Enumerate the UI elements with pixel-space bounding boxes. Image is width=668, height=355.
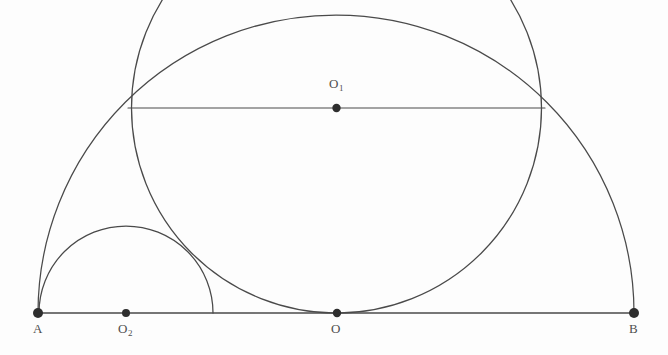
small-semicircle-arc <box>39 226 213 313</box>
point-label-a: A <box>33 321 43 337</box>
point-label-o2-base: O <box>118 321 128 336</box>
point-label-o2: O2 <box>118 321 132 337</box>
large-circle-O1 <box>132 0 542 313</box>
point-label-b: B <box>629 321 638 337</box>
point-o-dot <box>333 309 341 317</box>
point-o1-dot <box>332 104 340 112</box>
point-a-dot <box>33 308 43 318</box>
outer-semicircle-arc <box>38 15 634 313</box>
point-label-o1-base: O <box>329 76 339 91</box>
point-b-dot <box>629 308 639 318</box>
geometry-figure: A O2 O O1 B <box>0 0 668 355</box>
point-label-o: O <box>331 321 341 337</box>
geometry-canvas <box>0 0 668 355</box>
point-label-o1-subscript: 1 <box>339 83 344 93</box>
point-label-o2-subscript: 2 <box>128 328 133 338</box>
point-o2-dot <box>122 309 130 317</box>
point-label-o1: O1 <box>329 76 343 92</box>
